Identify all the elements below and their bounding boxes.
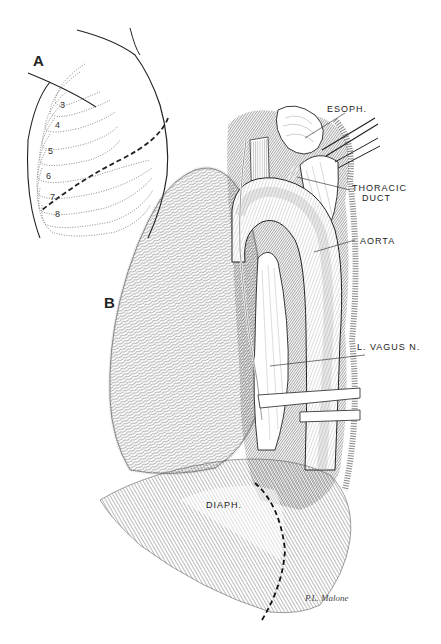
anatomical-illustration: [0, 0, 441, 644]
panel-a-chest-outline: [28, 28, 169, 238]
artist-signature: P.L. Malone: [305, 593, 349, 603]
rib-number-4: 4: [55, 120, 60, 130]
label-thoracic-duct-line2: DUCT: [362, 193, 391, 203]
rib-number-3: 3: [60, 100, 65, 110]
panel-b-surgical-field: [100, 106, 380, 620]
label-esophagus: ESOPH.: [327, 104, 367, 114]
label-diaphragm: DIAPH.: [206, 500, 242, 510]
rib-number-7: 7: [50, 192, 55, 202]
label-aorta: AORTA: [360, 236, 395, 246]
rib-number-5: 5: [48, 146, 53, 156]
panel-label-b: B: [104, 294, 115, 311]
rib-number-8: 8: [55, 209, 60, 219]
rib-number-6: 6: [46, 171, 51, 181]
label-thoracic-duct-line1: THORACIC: [352, 183, 407, 193]
panel-label-a: A: [33, 52, 44, 69]
label-left-vagus-nerve: L. VAGUS N.: [357, 342, 420, 352]
